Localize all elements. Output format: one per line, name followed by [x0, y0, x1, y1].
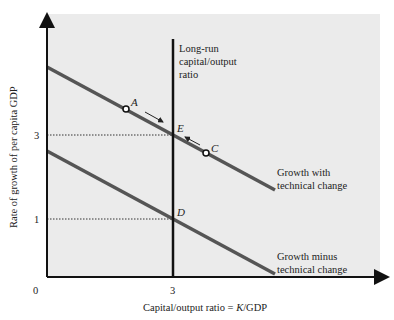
y-tick-3: 3	[34, 130, 39, 141]
y-axis-title: Rate of growth of per capita GDP	[8, 86, 19, 228]
x-axis-title: Capital/output ratio = K/GDP	[143, 302, 267, 313]
y-tick-1: 1	[34, 214, 39, 225]
point-c-label: C	[211, 142, 219, 154]
point-d-label: D	[176, 206, 185, 218]
growth-diagram: A E C D Long-run capital/output ratio Gr…	[0, 0, 394, 320]
origin-label: 0	[33, 285, 38, 296]
x-tick-3: 3	[170, 285, 175, 296]
point-e-label: E	[176, 122, 184, 134]
point-a-label: A	[130, 96, 138, 108]
point-c-marker	[203, 150, 209, 156]
point-a-marker	[123, 106, 129, 112]
